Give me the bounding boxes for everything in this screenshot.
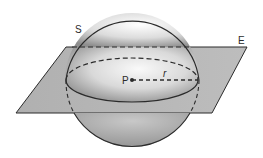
label-e: E <box>238 35 245 46</box>
sphere-plane-diagram: S E P r <box>0 0 263 158</box>
label-p: P <box>122 75 129 86</box>
label-s: S <box>75 24 82 35</box>
center-point-p <box>130 78 134 82</box>
